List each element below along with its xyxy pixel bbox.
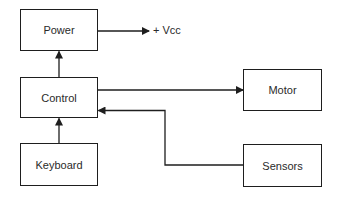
keyboard-block: Keyboard xyxy=(20,143,98,186)
vcc-terminal-label: + Vcc xyxy=(153,24,181,36)
sensors-block: Sensors xyxy=(243,144,322,187)
control-label: Control xyxy=(41,92,76,104)
power-block: Power xyxy=(20,9,98,51)
power-label: Power xyxy=(43,24,74,36)
control-block: Control xyxy=(20,77,98,118)
keyboard-label: Keyboard xyxy=(35,159,82,171)
connector-sensors-to-control xyxy=(99,111,244,166)
block-diagram: Power Control Keyboard Motor Sensors + V… xyxy=(0,0,339,197)
sensors-label: Sensors xyxy=(262,160,302,172)
motor-label: Motor xyxy=(268,84,296,96)
motor-block: Motor xyxy=(243,69,322,111)
